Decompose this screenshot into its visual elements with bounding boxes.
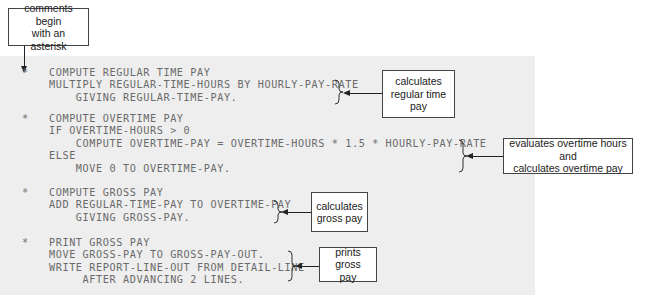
connector-line [287, 212, 311, 213]
callout-text: calculates [395, 75, 442, 88]
callout-comments: comments begin with an asterisk [8, 8, 89, 46]
callout-text: pay [410, 100, 427, 113]
callout-text: calculates [316, 200, 363, 213]
code-line: WRITE REPORT-LINE-OUT FROM DETAIL-LINE [22, 262, 305, 274]
code-line: * PRINT GROSS PAY [22, 237, 305, 249]
callout-text: regular time [391, 88, 446, 101]
callout-text: gross pay [317, 212, 363, 225]
code-line: ADD REGULAR-TIME-PAY TO OVERTIME-PAY [22, 199, 291, 211]
callout-text: calculates overtime pay [513, 162, 623, 175]
code-line: AFTER ADVANCING 2 LINES. [22, 274, 305, 286]
code-line: * COMPUTE OVERTIME PAY [22, 113, 487, 125]
code-line: ELSE [22, 150, 487, 162]
code-line: GIVING GROSS-PAY. [22, 212, 291, 224]
code-line: MOVE 0 TO OVERTIME-PAY. [22, 163, 487, 175]
callout-regular-pay: calculates regular time pay [382, 70, 455, 118]
code-block-print-gross-pay: * PRINT GROSS PAY MOVE GROSS-PAY TO GROS… [22, 237, 305, 287]
code-line: MOVE GROSS-PAY TO GROSS-PAY-OUT. [22, 249, 305, 261]
callout-print-gross-pay: prints gross pay [319, 247, 377, 282]
connector-line [472, 156, 504, 157]
connector-line [301, 266, 319, 267]
callout-overtime-pay: evaluates overtime hours and calculates … [503, 138, 633, 174]
code-line: IF OVERTIME-HOURS > 0 [22, 125, 487, 137]
code-line: COMPUTE OVERTIME-PAY = OVERTIME-HOURS * … [22, 138, 487, 150]
connector-line [349, 93, 382, 94]
code-line: * COMPUTE REGULAR TIME PAY [22, 67, 359, 79]
callout-gross-pay: calculates gross pay [311, 192, 368, 232]
code-line: MULTIPLY REGULAR-TIME-HOURS BY HOURLY-PA… [22, 79, 359, 91]
callout-text: comments begin [13, 2, 84, 27]
code-block-regular-pay: * COMPUTE REGULAR TIME PAY MULTIPLY REGU… [22, 67, 359, 104]
connector-line [24, 46, 25, 68]
code-line: GIVING REGULAR-TIME-PAY. [22, 92, 359, 104]
callout-text: evaluates overtime hours and [508, 137, 628, 162]
code-block-gross-pay: * COMPUTE GROSS PAY ADD REGULAR-TIME-PAY… [22, 187, 291, 224]
code-line: * COMPUTE GROSS PAY [22, 187, 291, 199]
code-block-overtime-pay: * COMPUTE OVERTIME PAY IF OVERTIME-HOURS… [22, 113, 487, 175]
callout-text: pay [340, 271, 357, 284]
callout-text: prints gross [324, 246, 372, 271]
